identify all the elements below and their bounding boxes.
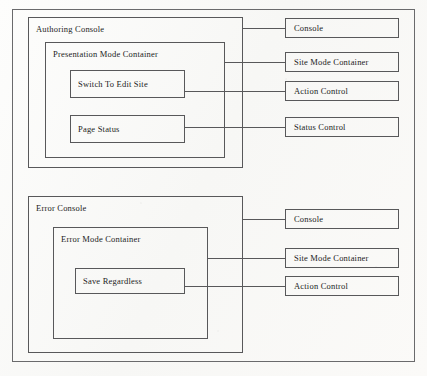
- legend-label-console-bottom: Console: [294, 215, 323, 224]
- presentation-mode-container-label: Presentation Mode Container: [53, 50, 158, 59]
- connector-switch-to-edit-site-to-action-control: [185, 91, 285, 92]
- error-console-label: Error Console: [36, 204, 87, 213]
- page-status-label: Page Status: [78, 125, 120, 134]
- error-mode-container-label: Error Mode Container: [61, 235, 141, 244]
- legend-box-action-control-top: Action Control: [285, 81, 399, 101]
- legend-label-site-mode-container-bottom: Site Mode Container: [294, 254, 369, 263]
- save-regardless-label: Save Regardless: [83, 277, 142, 286]
- legend-label-site-mode-container-top: Site Mode Container: [294, 58, 369, 67]
- connector-page-status-to-status-control: [185, 127, 285, 128]
- legend-box-site-mode-container-top: Site Mode Container: [285, 52, 399, 72]
- legend-box-console-bottom: Console: [285, 209, 399, 229]
- switch-to-edit-site-box: Switch To Edit Site: [70, 70, 185, 98]
- legend-box-status-control-top: Status Control: [285, 117, 399, 137]
- connector-authoring-console-to-console: [243, 28, 285, 29]
- legend-box-site-mode-container-bottom: Site Mode Container: [285, 248, 399, 268]
- legend-label-console-top: Console: [294, 24, 323, 33]
- save-regardless-box: Save Regardless: [75, 268, 185, 294]
- connector-presentation-container-to-site-mode: [225, 62, 285, 63]
- connector-error-console-to-console: [243, 219, 285, 220]
- authoring-console-label: Authoring Console: [36, 25, 104, 34]
- legend-label-action-control-bottom: Action Control: [294, 282, 348, 291]
- legend-label-status-control-top: Status Control: [294, 123, 346, 132]
- legend-label-action-control-top: Action Control: [294, 87, 348, 96]
- connector-error-mode-container-to-site-mode: [208, 258, 285, 259]
- page-status-box: Page Status: [70, 115, 185, 143]
- switch-to-edit-site-label: Switch To Edit Site: [78, 80, 148, 89]
- legend-box-action-control-bottom: Action Control: [285, 276, 399, 296]
- diagram-canvas: Authoring Console Presentation Mode Cont…: [0, 0, 427, 376]
- legend-box-console-top: Console: [285, 18, 399, 38]
- connector-save-regardless-to-action-control: [185, 286, 285, 287]
